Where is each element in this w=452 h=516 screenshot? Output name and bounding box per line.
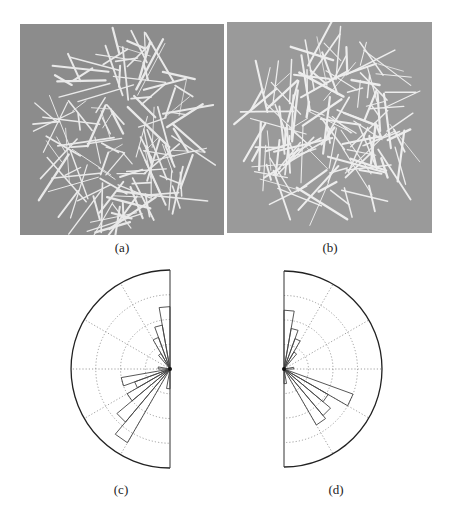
histogram-bar [115,369,170,443]
polar-histogram-c [71,270,172,468]
caption-c: (c) [101,482,141,498]
grid-spoke [284,320,369,369]
polar-histogram-d [282,271,382,467]
origin-point [282,367,286,371]
histogram-bar [127,369,170,401]
origin-point [168,367,172,371]
histogram-bar [284,369,326,425]
polar-histograms [0,0,452,516]
grid-ring [284,296,358,443]
histogram-bar [284,369,328,402]
caption-d: (d) [316,482,356,498]
